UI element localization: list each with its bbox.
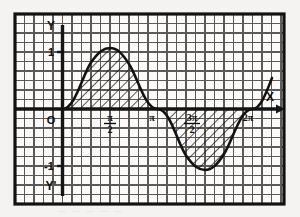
label-x-tick-pi: π — [149, 112, 155, 123]
label-origin: O — [47, 114, 56, 126]
label-x-tick-two-pi: 2π — [243, 112, 254, 123]
label-y-axis-top: Y — [47, 19, 55, 33]
label-x-axis-right: X — [266, 90, 274, 104]
label-y-tick-negative: -1 — [44, 160, 54, 172]
label-x-tick-half-pi-numerator: π — [107, 112, 113, 123]
sine-curve-figure: Y Y' X O 1 -1 π 2 π 3π 2 2π — [0, 0, 300, 217]
label-y-axis-bottom: Y' — [46, 179, 57, 193]
label-y-tick-positive: 1 — [48, 46, 54, 58]
label-x-tick-three-half-pi-denominator: 2 — [190, 124, 195, 135]
label-x-tick-half-pi-denominator: 2 — [108, 124, 113, 135]
label-x-tick-three-half-pi-numerator: 3π — [187, 112, 198, 123]
ghost-text-bottom: — — — — — — [58, 206, 124, 215]
